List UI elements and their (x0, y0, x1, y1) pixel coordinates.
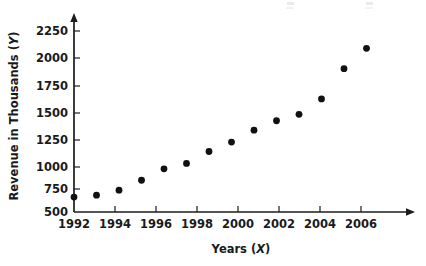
y-tick-label-1500: 1500 (36, 106, 68, 120)
data-point (71, 194, 78, 201)
scatter-plot: 2250 2000 1750 1500 1250 1000 750 500 19… (0, 0, 426, 266)
y-tick-label-1750: 1750 (36, 79, 68, 93)
chart-figure: 2250 2000 1750 1500 1250 1000 750 500 19… (0, 0, 426, 266)
y-tick-label-2000: 2000 (36, 51, 68, 65)
y-tick-label-750: 750 (44, 182, 68, 196)
y-tick-label-1250: 1250 (36, 133, 68, 147)
data-point (161, 165, 168, 172)
y-tick-label-1000: 1000 (36, 160, 68, 174)
x-axis-title-text: Years (211, 242, 248, 256)
x-tick-label-1994: 1994 (99, 217, 131, 231)
x-tick-label-1992: 1992 (58, 217, 90, 231)
data-point (296, 111, 303, 118)
data-point (273, 117, 280, 124)
y-tick-label-2250: 2250 (36, 24, 68, 38)
x-tick-label-1998: 1998 (181, 217, 213, 231)
data-point (138, 177, 145, 184)
data-point (363, 45, 370, 52)
data-point (228, 139, 235, 146)
y-axis-title: Revenue in Thousands (Y) (7, 31, 21, 200)
x-tick-label-2002: 2002 (263, 217, 295, 231)
data-point (93, 192, 100, 199)
x-axis-title: Years (X) (211, 242, 271, 256)
x-tick-label-2006: 2006 (345, 217, 377, 231)
y-axis-title-text: Revenue in Thousands (7, 54, 21, 200)
data-point (251, 127, 258, 134)
data-point (183, 160, 190, 167)
x-tick-label-1996: 1996 (140, 217, 172, 231)
data-point (116, 187, 123, 194)
data-point (206, 148, 213, 155)
x-tick-label-2004: 2004 (304, 217, 336, 231)
data-point (341, 65, 348, 72)
x-tick-label-2000: 2000 (222, 217, 254, 231)
data-point (318, 96, 325, 103)
